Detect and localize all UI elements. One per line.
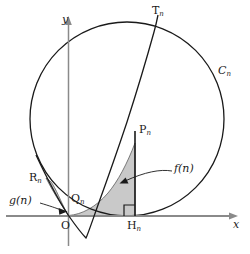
point-label-Tn-sub: n	[159, 10, 164, 18]
point-label-Hn: Hn	[127, 220, 141, 231]
g-label-leader-line	[40, 203, 61, 210]
point-label-Hn-base: H	[127, 219, 137, 232]
region-label-f: f(n)	[174, 163, 194, 174]
point-label-Rn-sub: n	[37, 177, 42, 185]
curve-label-Cn: Cn	[218, 65, 231, 76]
origin-label: O	[61, 220, 70, 231]
region-label-g: g(n)	[9, 195, 32, 206]
point-label-Qn-sub: n	[80, 198, 85, 206]
point-label-Tn: Tn	[152, 5, 164, 16]
curve-label-Cn-sub: n	[226, 70, 231, 78]
figure-canvas	[0, 0, 250, 254]
point-label-Qn: Qn	[71, 193, 85, 204]
g-label-arrowhead-icon	[59, 208, 68, 215]
y-axis-label: y	[62, 14, 68, 25]
geometry-figure: y x O Tn Cn Pn Rn Qn Hn f(n) g(n)	[0, 0, 250, 254]
point-label-Hn-sub: n	[137, 225, 142, 233]
point-label-Pn: Pn	[139, 124, 151, 135]
x-axis-label: x	[233, 219, 239, 230]
point-label-Qn-base: Q	[71, 192, 80, 205]
point-label-Pn-sub: n	[146, 129, 151, 137]
point-label-Rn: Rn	[29, 172, 42, 183]
